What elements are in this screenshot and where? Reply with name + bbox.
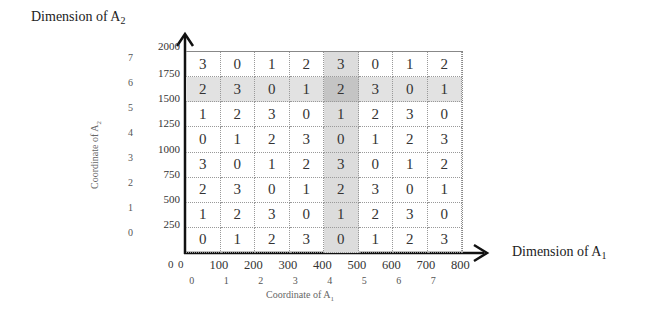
y-tick-label: 500 (164, 193, 181, 205)
x-tick-label: 200 (244, 258, 263, 273)
grid-cell: 2 (324, 178, 359, 203)
grid-cell: 3 (221, 178, 256, 203)
grid-cell: 0 (324, 228, 359, 253)
y-tick-label: 1750 (158, 67, 180, 79)
grid-cell: 3 (255, 203, 290, 228)
x-coordinate: 2 (258, 275, 263, 286)
x-coordinate: 0 (189, 275, 194, 286)
y-coordinate: 1 (128, 202, 133, 213)
y-coordinate: 5 (128, 102, 133, 113)
y-tick-label: 250 (164, 218, 181, 230)
y-tick-label: 1000 (158, 143, 180, 155)
grid-cell: 0 (221, 153, 256, 178)
grid-cell: 1 (255, 52, 290, 77)
y-coordinate-label: Coordinate of A2 (89, 121, 103, 189)
grid-cell: 3 (324, 52, 359, 77)
grid-cell: 3 (393, 203, 428, 228)
y-tick-label: 2000 (158, 40, 180, 52)
grid-cell: 3 (324, 153, 359, 178)
grid-cell: 0 (290, 102, 325, 127)
y-coordinate: 3 (128, 152, 133, 163)
y-coordinate: 0 (128, 227, 133, 238)
grid-cell: 0 (186, 127, 221, 152)
grid-cell: 1 (393, 52, 428, 77)
grid-cell: 2 (290, 52, 325, 77)
grid-cell: 1 (290, 178, 325, 203)
y-tick-label: 750 (164, 168, 181, 180)
x-tick-label: 400 (313, 258, 332, 273)
grid-cell: 2 (428, 153, 463, 178)
grid-cell: 0 (290, 203, 325, 228)
x-coordinate-label: Coordinate of A1 (266, 289, 334, 303)
grid-cell: 3 (186, 52, 221, 77)
x-coordinate: 1 (224, 275, 229, 286)
y-coordinate: 6 (128, 77, 133, 88)
grid-cell: 1 (255, 153, 290, 178)
grid-cell: 3 (186, 153, 221, 178)
grid-cell: 1 (359, 127, 394, 152)
y-coordinate: 7 (128, 52, 133, 63)
grid-cell: 0 (393, 77, 428, 102)
x-tick-label: 800 (451, 258, 470, 273)
x-coordinate: 3 (293, 275, 298, 286)
grid-cell: 1 (393, 153, 428, 178)
grid-cell: 1 (221, 228, 256, 253)
y-coordinate: 4 (128, 127, 133, 138)
grid-cell: 0 (221, 52, 256, 77)
grid-cell: 2 (186, 178, 221, 203)
grid-cell: 2 (359, 102, 394, 127)
grid-cell: 0 (393, 178, 428, 203)
grid-cell: 2 (324, 77, 359, 102)
grid-cell: 0 (255, 77, 290, 102)
grid-cell: 3 (359, 77, 394, 102)
grid-cell: 3 (221, 77, 256, 102)
grid-cell: 2 (393, 127, 428, 152)
grid-cell: 2 (186, 77, 221, 102)
y-coordinate: 2 (128, 177, 133, 188)
grid-cell: 1 (428, 77, 463, 102)
x-coordinate: 4 (327, 275, 332, 286)
grid-cell: 3 (393, 102, 428, 127)
grid-cell: 1 (221, 127, 256, 152)
grid-cell: 3 (428, 228, 463, 253)
x-coordinate: 7 (431, 275, 436, 286)
grid-cell: 3 (290, 127, 325, 152)
grid-cell: 1 (290, 77, 325, 102)
x-tick-label: 600 (382, 258, 401, 273)
x-tick-label: 100 (210, 258, 229, 273)
grid-cell: 2 (393, 228, 428, 253)
grid-cell: 0 (428, 102, 463, 127)
grid-cell: 3 (428, 127, 463, 152)
grid-cell: 1 (428, 178, 463, 203)
x-tick-label: 500 (348, 258, 367, 273)
grid-cell: 1 (324, 102, 359, 127)
grid-cell: 2 (359, 203, 394, 228)
y-tick-label: 0 (178, 258, 184, 270)
y-tick-label: 1250 (158, 117, 180, 129)
grid-cell: 1 (359, 228, 394, 253)
x-tick-label: 300 (279, 258, 298, 273)
grid-cell: 3 (255, 102, 290, 127)
grid-cell: 1 (324, 203, 359, 228)
grid-cell: 1 (186, 203, 221, 228)
grid-cell: 0 (428, 203, 463, 228)
x-coordinate: 6 (396, 275, 401, 286)
coordinate-grid: 3012301223012301123012300123012330123012… (186, 51, 463, 253)
grid-cell: 2 (255, 228, 290, 253)
grid-cell: 0 (186, 228, 221, 253)
grid-cell: 2 (255, 127, 290, 152)
grid-cell: 2 (290, 153, 325, 178)
grid-cell: 2 (221, 102, 256, 127)
grid-cell: 3 (359, 178, 394, 203)
grid-cell: 0 (255, 178, 290, 203)
grid-cell: 0 (359, 52, 394, 77)
grid-cell: 1 (186, 102, 221, 127)
grid-cell: 2 (221, 203, 256, 228)
grid-cell: 2 (428, 52, 463, 77)
x-tick-label: 700 (417, 258, 436, 273)
grid-cell: 0 (324, 127, 359, 152)
grid-cell: 0 (359, 153, 394, 178)
x-coordinate: 5 (362, 275, 367, 286)
origin-label: 0 (168, 258, 174, 270)
grid-cell: 3 (290, 228, 325, 253)
